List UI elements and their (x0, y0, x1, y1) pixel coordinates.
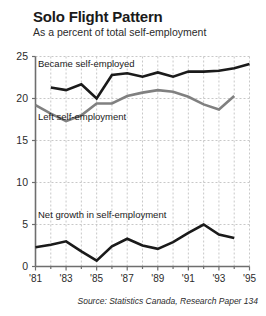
x-tick-label: '95 (237, 273, 263, 284)
y-tick-label: 15 (2, 134, 28, 146)
y-tick-label: 0 (2, 260, 28, 272)
x-tick-label: '81 (23, 273, 49, 284)
chart-plot-area (0, 0, 266, 316)
x-tick-label: '85 (84, 273, 110, 284)
series-label-net: Net growth in self-employment (38, 209, 166, 220)
series-label-left: Left self-employment (38, 111, 126, 122)
x-tick-label: '89 (145, 273, 171, 284)
series-line-0 (51, 64, 250, 98)
x-tick-label: '91 (175, 273, 201, 284)
y-tick-label: 25 (2, 50, 28, 62)
series-label-became: Became self-employed (38, 58, 135, 69)
y-tick-label: 10 (2, 176, 28, 188)
chart-figure: Solo Flight Pattern As a percent of tota… (0, 0, 266, 316)
y-tick-label: 20 (2, 92, 28, 104)
y-tick-label: 5 (2, 218, 28, 230)
x-tick-label: '87 (114, 273, 140, 284)
series-line-2 (36, 225, 235, 261)
source-note: Source: Statistics Canada, Research Pape… (78, 296, 259, 306)
x-tick-label: '93 (206, 273, 232, 284)
x-tick-label: '83 (53, 273, 79, 284)
